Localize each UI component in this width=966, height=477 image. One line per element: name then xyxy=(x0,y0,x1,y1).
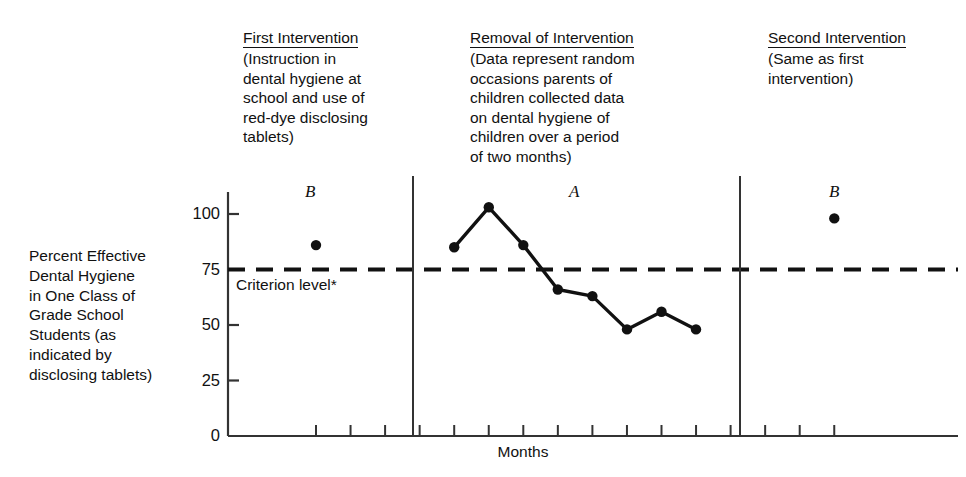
data-point-p2-8 xyxy=(691,324,701,334)
data-point-p2-1 xyxy=(449,242,459,252)
data-point-p2-3 xyxy=(518,240,528,250)
data-point-p2-2 xyxy=(484,202,494,212)
data-point-p2-7 xyxy=(656,307,666,317)
data-point-p2-5 xyxy=(587,291,597,301)
plot-area xyxy=(0,0,966,477)
figure-container: First Intervention (Instruction in denta… xyxy=(0,0,966,477)
data-point-p3-1 xyxy=(829,213,839,223)
x-axis-label-text: Months xyxy=(498,443,549,460)
data-point-p2-6 xyxy=(622,324,632,334)
data-point-p2-4 xyxy=(553,284,563,294)
x-axis-label: Months xyxy=(0,443,966,461)
data-point-p1-1 xyxy=(311,240,321,250)
